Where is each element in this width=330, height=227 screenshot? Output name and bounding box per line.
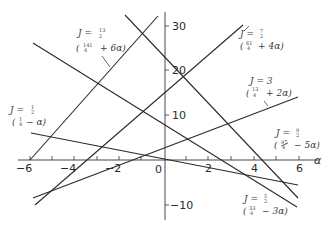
label-j5-2: J = 5 2 ( 33 4 − 3α) (242, 193, 288, 216)
svg-text:+ 6α): + 6α) (100, 43, 126, 53)
svg-text:4: 4 (19, 121, 22, 127)
svg-text:J =: J = (8, 105, 24, 115)
svg-text:J = 3: J = 3 (248, 76, 273, 86)
label-j3: J = 3 ( 13 4 + 2α) (246, 76, 292, 98)
x-axis-label: α (314, 154, 322, 167)
svg-text:(: ( (12, 117, 16, 127)
svg-text:J =: J = (274, 128, 290, 138)
svg-text:+ 2α): + 2α) (266, 88, 292, 98)
line-j13-2 (30, 16, 158, 160)
label-j9-2: J = 9 2 ( 97 4 − 5α) (274, 127, 320, 150)
svg-text:(: ( (76, 43, 80, 53)
svg-text:2: 2 (99, 33, 102, 39)
y-tick-label: 30 (172, 20, 186, 33)
svg-text:4: 4 (253, 92, 256, 98)
x-tick-label: 4 (251, 162, 258, 175)
x-tick-label: −6 (16, 162, 32, 175)
svg-text:(: ( (246, 88, 250, 98)
svg-text:J =: J = (238, 29, 254, 39)
svg-text:4: 4 (247, 45, 250, 51)
svg-text:2: 2 (296, 132, 299, 138)
svg-text:4: 4 (250, 210, 253, 216)
svg-text:(: ( (274, 140, 278, 150)
svg-text:− 3α): − 3α) (262, 206, 288, 216)
svg-text:2: 2 (264, 198, 267, 204)
svg-text:(: ( (240, 41, 244, 51)
svg-text:2: 2 (260, 33, 263, 39)
svg-text:− 5α): − 5α) (294, 140, 320, 150)
x-tick-label: −4 (60, 162, 76, 175)
y-tick-label: 20 (172, 64, 186, 77)
svg-text:4: 4 (84, 47, 87, 53)
x-tick-label: 6 (296, 162, 303, 175)
svg-text:2: 2 (31, 109, 34, 115)
leader-arrow (102, 56, 110, 67)
svg-text:+ 4α): + 4α) (258, 41, 284, 51)
line-j1-2 (31, 133, 298, 185)
svg-text:(: ( (243, 206, 247, 216)
y-tick-label: −10 (170, 199, 193, 212)
line-j7-2 (35, 25, 243, 205)
leader-arrow (264, 101, 268, 106)
y-ticks (165, 26, 169, 205)
label-j1-2: J = 1 2 ( 1 4 − α) (8, 104, 46, 127)
label-j7-2: J = 7 2 ( 61 4 + 4α) (238, 28, 284, 51)
x-tick-label: 0 (155, 163, 162, 176)
svg-text:4: 4 (282, 144, 285, 150)
y-tick-label: 10 (172, 109, 186, 122)
svg-text:J =: J = (76, 28, 92, 38)
x-tick-label: −2 (105, 162, 121, 175)
label-j13-2: J = 13 2 ( 141 4 + 6α) (76, 27, 126, 53)
svg-text:− α): − α) (26, 117, 46, 127)
energy-level-diagram: −6 −4 −2 0 2 4 6 α 30 20 10 −10 J = 13 2… (0, 0, 330, 227)
svg-text:J =: J = (242, 194, 258, 204)
